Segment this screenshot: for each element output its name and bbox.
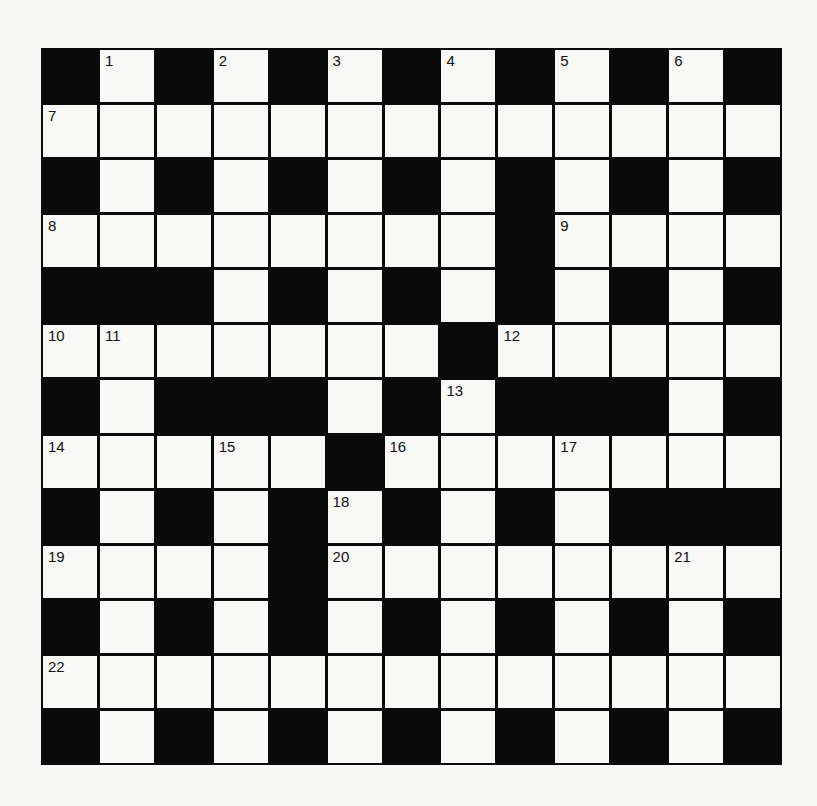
grid-cell[interactable] (271, 215, 325, 267)
grid-cell[interactable] (100, 491, 154, 543)
grid-cell[interactable] (555, 711, 609, 763)
grid-cell[interactable] (157, 656, 211, 708)
grid-cell[interactable] (214, 105, 268, 157)
grid-cell[interactable] (441, 546, 495, 598)
grid-cell[interactable] (385, 215, 439, 267)
grid-cell[interactable] (271, 656, 325, 708)
grid-cell[interactable] (669, 270, 723, 322)
grid-cell[interactable] (328, 601, 382, 653)
grid-cell[interactable] (669, 105, 723, 157)
grid-cell[interactable] (669, 601, 723, 653)
grid-cell[interactable] (385, 325, 439, 377)
grid-cell[interactable] (100, 436, 154, 488)
grid-cell[interactable] (100, 160, 154, 212)
grid-cell[interactable] (214, 656, 268, 708)
grid-cell[interactable] (726, 656, 780, 708)
grid-cell[interactable]: 18 (328, 491, 382, 543)
grid-cell[interactable]: 22 (43, 656, 97, 708)
grid-cell[interactable] (100, 546, 154, 598)
grid-cell[interactable] (441, 656, 495, 708)
grid-cell[interactable]: 11 (100, 325, 154, 377)
grid-cell[interactable] (669, 711, 723, 763)
grid-cell[interactable] (328, 105, 382, 157)
grid-cell[interactable] (328, 270, 382, 322)
grid-cell[interactable]: 7 (43, 105, 97, 157)
grid-cell[interactable]: 13 (441, 380, 495, 432)
grid-cell[interactable] (157, 105, 211, 157)
grid-cell[interactable]: 4 (441, 50, 495, 102)
grid-cell[interactable] (612, 105, 666, 157)
grid-cell[interactable] (328, 160, 382, 212)
grid-cell[interactable] (214, 270, 268, 322)
grid-cell[interactable] (157, 436, 211, 488)
grid-cell[interactable] (441, 711, 495, 763)
grid-cell[interactable] (214, 491, 268, 543)
grid-cell[interactable] (157, 215, 211, 267)
grid-cell[interactable] (441, 105, 495, 157)
grid-cell[interactable] (612, 215, 666, 267)
grid-cell[interactable] (498, 546, 552, 598)
grid-cell[interactable] (441, 215, 495, 267)
grid-cell[interactable]: 17 (555, 436, 609, 488)
grid-cell[interactable]: 15 (214, 436, 268, 488)
grid-cell[interactable] (385, 656, 439, 708)
grid-cell[interactable]: 3 (328, 50, 382, 102)
grid-cell[interactable] (441, 436, 495, 488)
grid-cell[interactable] (100, 601, 154, 653)
grid-cell[interactable] (669, 325, 723, 377)
grid-cell[interactable] (328, 380, 382, 432)
grid-cell[interactable] (214, 546, 268, 598)
grid-cell[interactable] (100, 215, 154, 267)
grid-cell[interactable] (498, 105, 552, 157)
grid-cell[interactable]: 6 (669, 50, 723, 102)
grid-cell[interactable] (555, 270, 609, 322)
grid-cell[interactable] (328, 325, 382, 377)
grid-cell[interactable] (555, 601, 609, 653)
grid-cell[interactable] (328, 656, 382, 708)
grid-cell[interactable]: 12 (498, 325, 552, 377)
grid-cell[interactable] (441, 270, 495, 322)
grid-cell[interactable] (100, 711, 154, 763)
grid-cell[interactable]: 19 (43, 546, 97, 598)
grid-cell[interactable] (441, 160, 495, 212)
grid-cell[interactable]: 5 (555, 50, 609, 102)
grid-cell[interactable] (271, 325, 325, 377)
grid-cell[interactable] (214, 215, 268, 267)
grid-cell[interactable]: 21 (669, 546, 723, 598)
grid-cell[interactable] (328, 215, 382, 267)
grid-cell[interactable] (271, 105, 325, 157)
grid-cell[interactable] (385, 105, 439, 157)
grid-cell[interactable] (669, 160, 723, 212)
grid-cell[interactable] (498, 656, 552, 708)
grid-cell[interactable] (100, 380, 154, 432)
grid-cell[interactable]: 16 (385, 436, 439, 488)
grid-cell[interactable] (214, 160, 268, 212)
grid-cell[interactable] (214, 711, 268, 763)
grid-cell[interactable]: 9 (555, 215, 609, 267)
grid-cell[interactable] (555, 105, 609, 157)
grid-cell[interactable] (612, 656, 666, 708)
grid-cell[interactable] (726, 436, 780, 488)
grid-cell[interactable] (271, 436, 325, 488)
grid-cell[interactable]: 14 (43, 436, 97, 488)
grid-cell[interactable] (726, 546, 780, 598)
grid-cell[interactable] (669, 656, 723, 708)
grid-cell[interactable] (441, 601, 495, 653)
grid-cell[interactable] (157, 546, 211, 598)
grid-cell[interactable] (669, 215, 723, 267)
grid-cell[interactable] (100, 656, 154, 708)
grid-cell[interactable] (612, 546, 666, 598)
grid-cell[interactable]: 20 (328, 546, 382, 598)
grid-cell[interactable] (726, 105, 780, 157)
grid-cell[interactable] (100, 105, 154, 157)
grid-cell[interactable] (214, 325, 268, 377)
grid-cell[interactable] (498, 436, 552, 488)
grid-cell[interactable] (441, 491, 495, 543)
grid-cell[interactable] (555, 546, 609, 598)
grid-cell[interactable] (612, 325, 666, 377)
grid-cell[interactable] (555, 160, 609, 212)
grid-cell[interactable] (669, 380, 723, 432)
grid-cell[interactable] (726, 215, 780, 267)
grid-cell[interactable] (157, 325, 211, 377)
grid-cell[interactable]: 8 (43, 215, 97, 267)
